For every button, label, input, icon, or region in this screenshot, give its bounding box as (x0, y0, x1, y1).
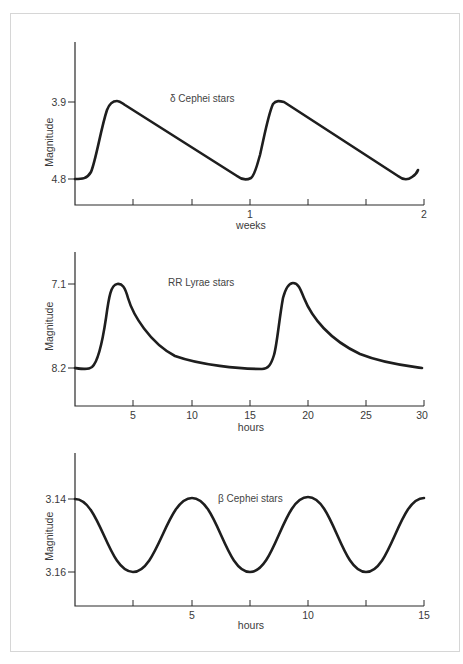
y-axis-label: Magnitude (44, 102, 55, 182)
chart-title: β Cephei stars (218, 494, 283, 504)
y-axis-label: Magnitude (44, 496, 55, 576)
xtick-label: 5 (118, 410, 148, 421)
delta-cephei-light-curve (75, 101, 418, 179)
xtick-label: 30 (407, 410, 437, 421)
delta-cephei-chart (68, 42, 424, 205)
y-axis-label: Magnitude (44, 286, 55, 366)
xtick-label: 25 (351, 410, 381, 421)
x-axis-label: hours (236, 620, 266, 631)
beta-cephei-light-curve (75, 497, 424, 572)
rr-lyrae-axes (75, 252, 424, 406)
delta-cephei-axes (75, 42, 424, 205)
rr-lyrae-chart (68, 252, 424, 406)
xtick-label: 15 (235, 410, 265, 421)
x-axis-label: hours (236, 422, 266, 433)
beta-cephei-axes (75, 453, 424, 606)
beta-cephei-chart (68, 453, 424, 606)
xtick-label: 10 (177, 410, 207, 421)
chart-title: RR Lyrae stars (168, 278, 234, 288)
xtick-label: 10 (293, 610, 323, 621)
xtick-label: 5 (177, 610, 207, 621)
xtick-label: 15 (409, 610, 439, 621)
rr-lyrae-light-curve (75, 283, 422, 369)
x-axis-label: weeks (236, 220, 266, 231)
xtick-label: 1 (235, 209, 265, 220)
xtick-label: 20 (293, 410, 323, 421)
xtick-label: 2 (409, 209, 439, 220)
chart-title: δ Cephei stars (170, 94, 234, 104)
